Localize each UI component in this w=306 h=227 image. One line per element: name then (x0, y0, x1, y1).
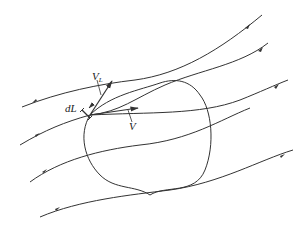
streamline-2 (90, 43, 268, 115)
streamline-5 (40, 150, 293, 217)
label-VL: VL (92, 70, 103, 84)
diagram-canvas: VL dL V (0, 0, 306, 227)
dL-indicator (89, 104, 93, 108)
label-dL: dL (65, 102, 77, 114)
streamline-1 (22, 15, 262, 107)
closed-curve (84, 81, 211, 195)
streamline-1-arrow-right (245, 24, 250, 29)
label-V: V (129, 120, 137, 132)
streamline-4 (30, 108, 250, 182)
